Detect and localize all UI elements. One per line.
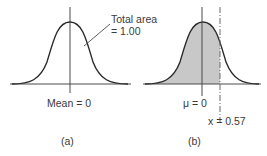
mean-label: Mean = 0 (47, 98, 91, 109)
total-area-label-line1: Total area (111, 14, 157, 25)
caption-a: (a) (61, 136, 74, 147)
annotation-leader-a (84, 24, 110, 46)
total-area-label-line2: = 1.00 (111, 26, 141, 37)
caption-b: (b) (188, 136, 201, 147)
x-marker-label: x = 0.57 (208, 116, 246, 127)
mu-label: μ = 0 (183, 98, 209, 109)
